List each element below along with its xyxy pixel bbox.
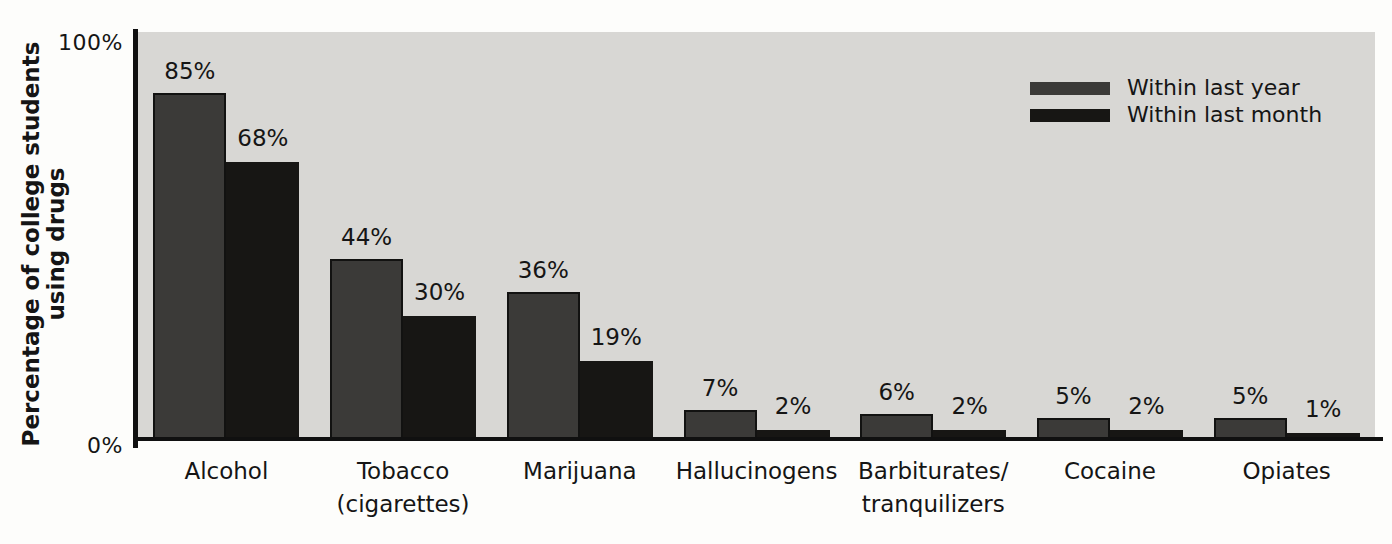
category-label-hallucinogens: Hallucinogens <box>668 455 845 521</box>
value-label-within-last-month-barbiturates-tranquilizers: 2% <box>951 393 988 419</box>
bar-within-last-year-alcohol: 85% <box>153 93 226 438</box>
chart-column-hallucinogens: 7%2% <box>668 32 845 438</box>
value-label-within-last-month-hallucinogens: 2% <box>775 393 812 419</box>
category-label-opiates: Opiates <box>1198 455 1375 521</box>
bar-within-last-year-marijuana: 36% <box>507 292 580 438</box>
bar-within-last-year-cocaine: 5% <box>1037 418 1110 438</box>
y-axis-title: Percentage of college students using dru… <box>19 42 69 447</box>
chart-column-marijuana: 36%19% <box>491 32 668 438</box>
value-label-within-last-year-opiates: 5% <box>1232 383 1269 409</box>
category-label-alcohol: Alcohol <box>138 455 315 521</box>
legend-swatch-within-last-year <box>1030 82 1110 95</box>
bar-within-last-year-barbiturates-tranquilizers: 6% <box>860 414 933 438</box>
value-label-within-last-year-tobacco-cigarettes: 44% <box>341 224 392 250</box>
value-label-within-last-year-marijuana: 36% <box>518 257 569 283</box>
category-label-barbiturates-tranquilizers: Barbiturates/tranquilizers <box>845 455 1022 521</box>
value-label-within-last-month-opiates: 1% <box>1305 396 1342 422</box>
y-tick-100: 100% <box>33 30 123 55</box>
value-label-within-last-year-alcohol: 85% <box>164 58 215 84</box>
bar-pair-opiates: 5%1% <box>1214 418 1360 438</box>
bar-pair-barbiturates-tranquilizers: 6%2% <box>860 414 1006 438</box>
legend-label-within-last-month: Within last month <box>1127 103 1322 127</box>
legend-item-within-last-year: Within last year <box>1030 76 1322 100</box>
bar-within-last-year-hallucinogens: 7% <box>684 410 757 438</box>
category-label-marijuana: Marijuana <box>491 455 668 521</box>
legend-label-within-last-year: Within last year <box>1127 76 1300 100</box>
y-tick-0: 0% <box>33 433 123 458</box>
value-label-within-last-year-hallucinogens: 7% <box>702 375 739 401</box>
chart-column-barbiturates-tranquilizers: 6%2% <box>845 32 1022 438</box>
bar-within-last-month-tobacco-cigarettes: 30% <box>403 316 476 438</box>
bar-within-last-year-opiates: 5% <box>1214 418 1287 438</box>
bar-pair-alcohol: 85%68% <box>153 93 299 438</box>
category-label-cocaine: Cocaine <box>1022 455 1199 521</box>
y-axis-title-line1: Percentage of college students <box>19 42 44 447</box>
bar-pair-tobacco-cigarettes: 44%30% <box>330 259 476 438</box>
value-label-within-last-month-alcohol: 68% <box>237 125 288 151</box>
legend-swatch-within-last-month <box>1030 109 1110 122</box>
plot-area: 85%68%44%30%36%19%7%2%6%2%5%2%5%1% Withi… <box>138 32 1375 438</box>
bar-within-last-year-tobacco-cigarettes: 44% <box>330 259 403 438</box>
value-label-within-last-year-cocaine: 5% <box>1055 383 1092 409</box>
category-label-tobacco-cigarettes: Tobacco(cigarettes) <box>315 455 492 521</box>
x-axis-line <box>133 437 1383 441</box>
value-label-within-last-year-barbiturates-tranquilizers: 6% <box>878 379 915 405</box>
bar-pair-cocaine: 5%2% <box>1037 418 1183 438</box>
figure: Percentage of college students using dru… <box>0 0 1392 544</box>
y-axis-title-line2: using drugs <box>44 42 69 447</box>
category-axis-labels: AlcoholTobacco(cigarettes)MarijuanaHallu… <box>138 455 1375 521</box>
legend: Within last year Within last month <box>1030 76 1322 127</box>
bar-within-last-month-alcohol: 68% <box>226 162 299 438</box>
y-axis-line <box>133 29 138 448</box>
chart-column-tobacco-cigarettes: 44%30% <box>315 32 492 438</box>
value-label-within-last-month-marijuana: 19% <box>591 324 642 350</box>
value-label-within-last-month-tobacco-cigarettes: 30% <box>414 279 465 305</box>
bar-pair-hallucinogens: 7%2% <box>684 410 830 438</box>
legend-item-within-last-month: Within last month <box>1030 103 1322 127</box>
value-label-within-last-month-cocaine: 2% <box>1128 393 1165 419</box>
bar-within-last-month-marijuana: 19% <box>580 361 653 438</box>
bar-pair-marijuana: 36%19% <box>507 292 653 438</box>
chart-column-alcohol: 85%68% <box>138 32 315 438</box>
